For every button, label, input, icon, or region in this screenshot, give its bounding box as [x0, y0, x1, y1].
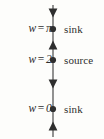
state-variable-0: w: [28, 102, 36, 114]
state-value-2: 2: [46, 53, 52, 65]
flow-arrow-up-between-2-and-pi: [49, 41, 58, 50]
state-variable-pi: w: [28, 22, 36, 34]
state-relation-pi: =: [36, 22, 46, 34]
state-label-w-equals-2: w=2: [28, 54, 52, 66]
flow-arrow-up-below-0: [49, 122, 58, 131]
state-value-pi: π: [46, 22, 52, 34]
state-relation-2: =: [36, 53, 46, 65]
phase-line-axis: [0, 0, 104, 139]
state-label-w-equals-0: w=0: [28, 103, 52, 115]
classification-label-w-equals-2: source: [64, 55, 93, 66]
flow-arrow-down-above-pi: [49, 9, 58, 18]
classification-label-w-equals-pi: sink: [64, 24, 83, 35]
phase-line-figure: w=π w=2 w=0 sink source sink: [0, 0, 104, 139]
state-label-w-equals-pi: w=π: [28, 23, 52, 35]
state-variable-2: w: [28, 53, 36, 65]
state-relation-0: =: [36, 102, 46, 114]
classification-label-w-equals-0: sink: [64, 104, 83, 115]
flow-arrow-down-between-0-and-2: [49, 80, 58, 89]
state-value-0: 0: [46, 102, 52, 114]
